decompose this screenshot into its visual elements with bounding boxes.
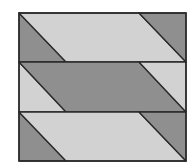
striped-parallelogram-diagram	[0, 0, 194, 166]
